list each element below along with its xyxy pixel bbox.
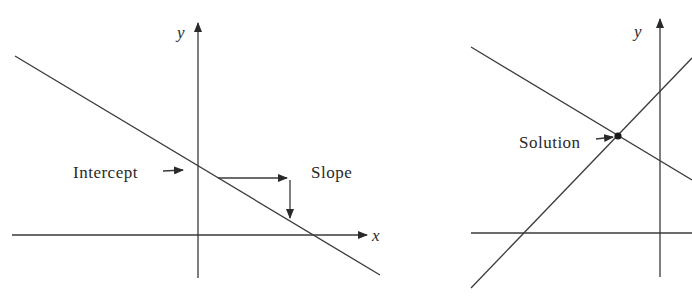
- left-y-label: y: [175, 23, 185, 42]
- solution-label: Solution: [519, 133, 581, 152]
- slope-label: Slope: [311, 163, 352, 182]
- intercept-label: Intercept: [73, 163, 138, 182]
- left-x-label: x: [371, 226, 380, 245]
- diagram-canvas: y x Intercept Slope y Solution: [0, 0, 692, 299]
- solution-arrow-icon: [596, 137, 613, 139]
- line-ascending: [471, 58, 692, 288]
- solution-point: [614, 132, 621, 139]
- intercept-arrow-icon: [163, 170, 183, 171]
- line-descending: [471, 47, 692, 180]
- right-y-label: y: [632, 22, 642, 41]
- right-panel: y Solution: [471, 19, 692, 288]
- left-panel: y x Intercept Slope: [12, 23, 380, 278]
